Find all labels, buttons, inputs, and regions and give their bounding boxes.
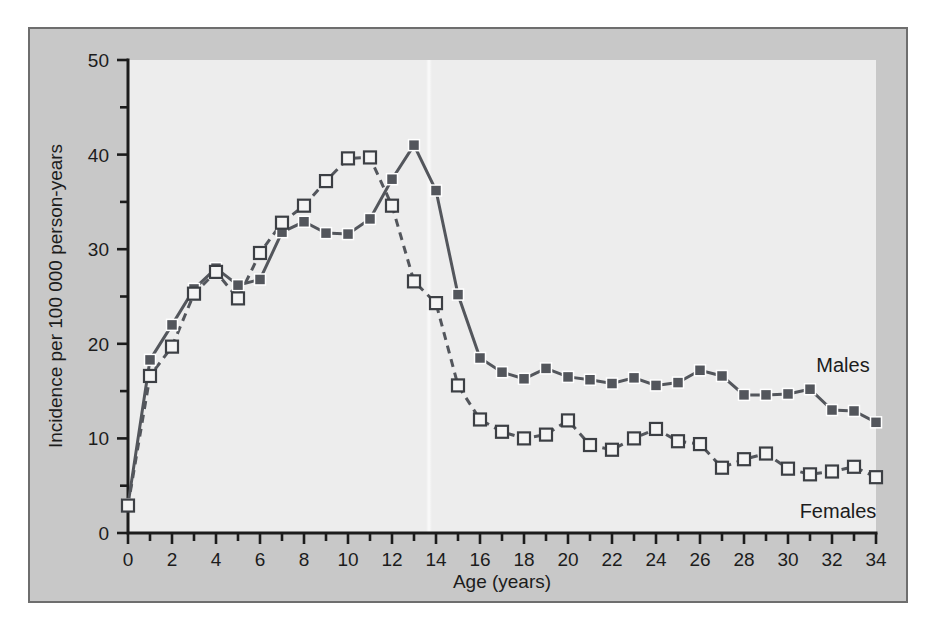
data-point-females: [232, 292, 244, 304]
x-axis-ticks: [128, 533, 876, 544]
data-point-females: [320, 175, 332, 187]
data-point-males: [761, 389, 772, 400]
x-tick-label: 20: [557, 549, 578, 570]
data-point-females: [738, 453, 750, 465]
data-point-males: [651, 380, 662, 391]
data-point-males: [695, 365, 706, 376]
y-tick-label: 40: [88, 145, 109, 166]
x-tick-label: 32: [821, 549, 842, 570]
y-tick-label: 30: [88, 239, 109, 260]
data-point-females: [760, 448, 772, 460]
chart-svg: 01020304050 0246810121416182022242628303…: [0, 0, 938, 630]
x-tick-label: 4: [211, 549, 222, 570]
data-point-females: [584, 439, 596, 451]
x-tick-label: 34: [865, 549, 887, 570]
data-point-females: [672, 435, 684, 447]
x-tick-label: 18: [513, 549, 534, 570]
data-point-females: [210, 266, 222, 278]
data-point-males: [365, 213, 376, 224]
y-axis-ticks: [117, 60, 128, 533]
data-point-females: [606, 444, 618, 456]
data-point-females: [870, 471, 882, 483]
x-tick-label: 6: [255, 549, 266, 570]
data-point-females: [364, 151, 376, 163]
data-point-females: [276, 217, 288, 229]
x-tick-label: 28: [733, 549, 754, 570]
data-point-males: [783, 388, 794, 399]
figure-container: 01020304050 0246810121416182022242628303…: [0, 0, 938, 630]
data-point-females: [386, 200, 398, 212]
data-point-females: [166, 341, 178, 353]
data-point-males: [145, 354, 156, 365]
x-tick-label: 2: [167, 549, 178, 570]
data-point-females: [782, 463, 794, 475]
data-point-males: [343, 229, 354, 240]
data-point-males: [607, 378, 618, 389]
data-point-females: [848, 461, 860, 473]
data-point-males: [827, 405, 838, 416]
x-tick-label: 8: [299, 549, 310, 570]
data-point-males: [409, 140, 420, 151]
x-tick-label: 24: [645, 549, 667, 570]
data-point-males: [871, 417, 882, 428]
data-point-males: [629, 372, 640, 383]
data-point-males: [563, 371, 574, 382]
data-point-females: [408, 275, 420, 287]
data-point-females: [716, 462, 728, 474]
data-point-females: [298, 200, 310, 212]
data-point-females: [540, 429, 552, 441]
data-point-females: [188, 288, 200, 300]
x-tick-label: 22: [601, 549, 622, 570]
data-point-males: [849, 405, 860, 416]
data-point-females: [518, 432, 530, 444]
data-point-females: [694, 438, 706, 450]
series-label-males: Males: [816, 354, 869, 376]
data-point-males: [387, 174, 398, 185]
data-point-females: [826, 466, 838, 478]
data-point-males: [497, 367, 508, 378]
data-point-females: [144, 370, 156, 382]
data-point-males: [585, 374, 596, 385]
data-point-males: [255, 274, 266, 285]
data-point-males: [739, 389, 750, 400]
data-point-females: [122, 500, 134, 512]
x-tick-label: 30: [777, 549, 798, 570]
data-point-females: [804, 468, 816, 480]
series-label-females: Females: [800, 500, 877, 522]
x-tick-label: 14: [425, 549, 447, 570]
y-axis-title: Incidence per 100 000 person-years: [45, 144, 66, 448]
data-point-females: [342, 152, 354, 164]
x-axis-title: Age (years): [453, 571, 551, 592]
data-point-males: [541, 363, 552, 374]
series-markers-females: [122, 151, 882, 511]
y-tick-label: 10: [88, 428, 109, 449]
y-tick-label: 0: [98, 523, 109, 544]
data-point-females: [650, 423, 662, 435]
y-axis-tick-labels: 01020304050: [88, 50, 109, 544]
data-point-females: [452, 379, 464, 391]
data-point-females: [430, 297, 442, 309]
data-point-males: [167, 319, 178, 330]
data-point-females: [496, 426, 508, 438]
x-tick-label: 26: [689, 549, 710, 570]
data-point-females: [254, 247, 266, 259]
data-point-males: [673, 377, 684, 388]
x-tick-label: 16: [469, 549, 490, 570]
data-point-males: [519, 373, 530, 384]
data-point-females: [474, 413, 486, 425]
data-point-males: [805, 384, 816, 395]
x-axis-tick-labels: 0246810121416182022242628303234: [123, 549, 887, 570]
data-point-males: [299, 216, 310, 227]
data-point-males: [233, 280, 244, 291]
x-tick-label: 0: [123, 549, 134, 570]
data-point-males: [431, 185, 442, 196]
y-tick-label: 20: [88, 334, 109, 355]
data-point-males: [717, 370, 728, 381]
data-point-females: [628, 432, 640, 444]
x-tick-label: 12: [381, 549, 402, 570]
y-tick-label: 50: [88, 50, 109, 71]
data-point-males: [321, 228, 332, 239]
data-point-males: [453, 289, 464, 300]
data-point-males: [475, 352, 486, 363]
data-point-females: [562, 414, 574, 426]
